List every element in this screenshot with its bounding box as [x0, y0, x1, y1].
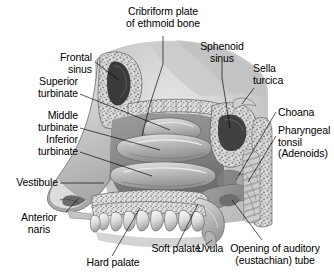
- label-sella-turcica: Sella turcica: [253, 63, 323, 86]
- label-middle-turbinate: Middle turbinate: [0, 110, 78, 133]
- label-superior-turbinate: Superior turbinate: [0, 76, 78, 99]
- label-hard-palate: Hard palate: [77, 257, 149, 269]
- label-choana: Choana: [278, 107, 330, 119]
- label-anterior-naris: Anterior naris: [8, 212, 70, 235]
- label-inferior-turbinate: Inferior turbinate: [0, 134, 78, 157]
- label-cribriform-plate: Cribriform plate of ethmoid bone: [103, 6, 223, 29]
- label-pharyngeal-tonsil: Pharyngeal tonsil (Adenoids): [278, 125, 334, 160]
- label-sphenoid-sinus: Sphenoid sinus: [186, 41, 258, 64]
- teeth-row: [99, 210, 205, 231]
- label-frontal-sinus: Frontal sinus: [0, 52, 92, 75]
- maxilla-teeth: [90, 202, 206, 233]
- inferior-turbinate-shape: [110, 162, 215, 190]
- label-vestibule: Vestibule: [0, 177, 58, 189]
- label-auditory-tube: Opening of auditory (eustachian) tube: [222, 243, 328, 266]
